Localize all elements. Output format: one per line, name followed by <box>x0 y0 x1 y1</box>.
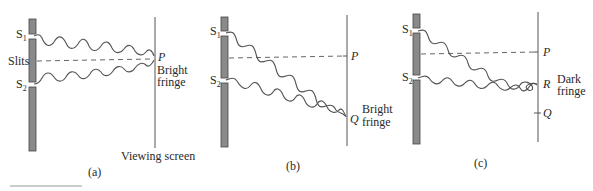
label-point-p: P <box>542 45 551 59</box>
slit-barrier <box>221 17 228 147</box>
label-point-q: Q <box>350 112 359 126</box>
label-s2: S2 <box>402 70 413 86</box>
slit-barrier <box>413 14 420 144</box>
caption-c: (c) <box>474 156 487 170</box>
panel-a: S1 Slits S2 P Bright fringe Viewing scre… <box>8 17 195 186</box>
label-point-p: P <box>157 50 166 64</box>
wave-from-s2 <box>226 78 346 117</box>
wave-from-s1 <box>418 30 537 90</box>
panel-b: S1 S2 P Q Bright fringe (b) <box>210 15 393 173</box>
caption-b: (b) <box>286 159 300 173</box>
label-dark-fringe-2: fringe <box>557 84 586 98</box>
panel-c: S1 S2 P R Q Dark fringe (c) <box>402 12 586 170</box>
slit-barrier <box>29 19 36 151</box>
label-s1: S1 <box>402 22 413 38</box>
label-bright-fringe-1: Bright <box>362 102 393 116</box>
wave-from-s2 <box>418 76 537 91</box>
label-bright-fringe-2: fringe <box>362 115 391 129</box>
label-bright-fringe-2: fringe <box>157 75 186 89</box>
label-s1: S1 <box>16 27 27 43</box>
label-viewing-screen: Viewing screen <box>121 149 195 163</box>
center-line <box>421 52 537 54</box>
label-point-r: R <box>542 77 551 91</box>
center-line <box>37 59 152 61</box>
label-s2: S2 <box>16 77 27 93</box>
center-line <box>229 56 346 58</box>
label-point-q: Q <box>543 106 552 120</box>
label-point-p: P <box>350 49 359 63</box>
double-slit-diagram: S1 Slits S2 P Bright fringe Viewing scre… <box>0 0 593 191</box>
wave-from-s2 <box>34 60 154 84</box>
label-slits: Slits <box>8 54 30 68</box>
wave-from-s1 <box>34 35 154 56</box>
label-s1: S1 <box>210 24 221 40</box>
wave-from-s1 <box>226 32 345 116</box>
label-s2: S2 <box>210 73 221 89</box>
caption-a: (a) <box>88 165 101 179</box>
